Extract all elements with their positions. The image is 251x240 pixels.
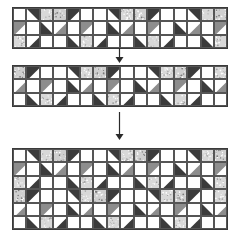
quilt-patch-w — [174, 8, 187, 21]
quilt-patch-g4 — [80, 79, 93, 92]
quilt-patch-d3 — [67, 79, 80, 92]
quilt-patch-d3 — [107, 162, 120, 175]
quilt-patch-w — [53, 79, 66, 92]
quilt-patch-w — [93, 8, 106, 21]
top-strip — [12, 7, 228, 49]
quilt-patch-p3 — [40, 216, 53, 229]
quilt-patch-d4 — [26, 35, 39, 48]
quilt-patch-d3 — [160, 93, 173, 106]
quilt-patch-d3 — [134, 35, 147, 48]
quilt-patch-w — [26, 203, 39, 216]
quilt-patch-d2 — [67, 189, 80, 202]
quilt-patch-d3 — [134, 203, 147, 216]
quilt-patch-d3 — [160, 216, 173, 229]
quilt-patch-p3 — [107, 93, 120, 106]
quilt-patch-w — [13, 93, 26, 106]
quilt-patch-d1 — [187, 189, 200, 202]
quilt-patch-d2 — [107, 8, 120, 21]
quilt-patch-d3 — [174, 162, 187, 175]
quilt-patch-d3 — [201, 176, 214, 189]
quilt-patch-p1 — [160, 66, 173, 79]
quilt-patch-g1 — [107, 203, 120, 216]
quilt-patch-d3 — [67, 35, 80, 48]
quilt-patch-p1 — [160, 189, 173, 202]
quilt-patch-p1 — [40, 149, 53, 162]
quilt-patch-w — [147, 93, 160, 106]
quilt-patch-p2 — [53, 8, 66, 21]
quilt-patch-p1 — [40, 8, 53, 21]
quilt-patch-d1 — [67, 8, 80, 21]
quilt-patch-w — [13, 216, 26, 229]
quilt-patch-p1 — [201, 8, 214, 21]
quilt-patch-g1 — [80, 21, 93, 34]
quilt-patch-p2 — [13, 189, 26, 202]
quilt-patch-p3 — [214, 35, 227, 48]
quilt-patch-d3 — [26, 93, 39, 106]
quilt-patch-d4 — [93, 176, 106, 189]
quilt-patch-w — [53, 35, 66, 48]
quilt-patch-p1 — [214, 66, 227, 79]
quilt-patch-d2 — [26, 149, 39, 162]
quilt-patch-w — [201, 21, 214, 34]
quilt-patch-p3 — [174, 216, 187, 229]
quilt-patch-d2 — [147, 66, 160, 79]
quilt-patch-w — [187, 35, 200, 48]
quilt-patch-g4 — [147, 79, 160, 92]
quilt-patch-d3 — [201, 203, 214, 216]
quilt-patch-d3 — [67, 176, 80, 189]
quilt-patch-w — [120, 189, 133, 202]
quilt-patch-w — [174, 35, 187, 48]
quilt-patch-d4 — [160, 35, 173, 48]
quilt-patch-w — [67, 162, 80, 175]
quilt-patch-g1 — [214, 21, 227, 34]
quilt-patch-d1 — [187, 66, 200, 79]
quilt-patch-w — [53, 189, 66, 202]
quilt-patch-d4 — [93, 35, 106, 48]
quilt-patch-p3 — [13, 35, 26, 48]
quilt-patch-d1 — [67, 149, 80, 162]
quilt-patch-w — [147, 216, 160, 229]
joined-block-strip — [12, 148, 228, 230]
quilt-patch-g1 — [40, 203, 53, 216]
quilt-patch-p1 — [120, 149, 133, 162]
quilt-patch-p3 — [80, 35, 93, 48]
quilt-patch-w — [187, 176, 200, 189]
quilt-patch-w — [26, 79, 39, 92]
quilt-patch-d2 — [26, 8, 39, 21]
quilt-patch-w — [120, 66, 133, 79]
quilt-patch-g4 — [13, 79, 26, 92]
quilt-patch-g4 — [80, 203, 93, 216]
quilt-patch-d3 — [93, 216, 106, 229]
quilt-patch-g4 — [120, 162, 133, 175]
arrow-strip2-to-result — [114, 112, 125, 140]
quilt-patch-g1 — [107, 79, 120, 92]
quilt-patch-w — [53, 176, 66, 189]
quilt-patch-g4 — [53, 162, 66, 175]
quilt-patch-d2 — [107, 149, 120, 162]
quilt-patch-p3 — [40, 93, 53, 106]
quilt-patch-w — [160, 149, 173, 162]
quilt-patch-p3 — [80, 176, 93, 189]
quilt-patch-w — [134, 216, 147, 229]
quilt-patch-w — [53, 66, 66, 79]
quilt-patch-p2 — [174, 66, 187, 79]
quilt-patch-d1 — [107, 189, 120, 202]
quilt-patch-w — [134, 66, 147, 79]
quilt-patch-w — [201, 162, 214, 175]
quilt-patch-w — [93, 149, 106, 162]
quilt-patch-w — [120, 203, 133, 216]
quilt-patch-p1 — [120, 8, 133, 21]
quilt-patch-w — [160, 162, 173, 175]
quilt-patch-g4 — [187, 162, 200, 175]
quilt-patch-w — [160, 203, 173, 216]
quilt-patch-p2 — [174, 189, 187, 202]
quilt-patch-p3 — [147, 176, 160, 189]
quilt-patch-g1 — [13, 162, 26, 175]
quilt-patch-w — [13, 8, 26, 21]
quilt-patch-d4 — [120, 216, 133, 229]
quilt-patch-g4 — [214, 79, 227, 92]
quilt-patch-d3 — [134, 79, 147, 92]
quilt-patch-d1 — [147, 149, 160, 162]
quilt-patch-w — [40, 176, 53, 189]
quilt-patch-d4 — [160, 176, 173, 189]
